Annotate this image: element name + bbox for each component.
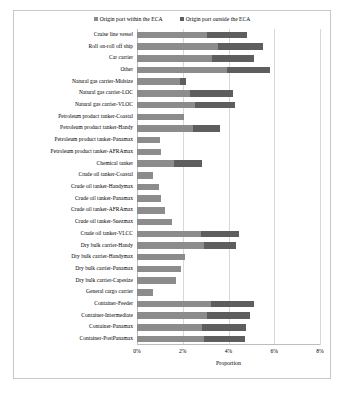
bar-segment-series-1: [137, 78, 180, 85]
bar-row: [137, 67, 320, 74]
bar-row: [137, 231, 320, 238]
bar-rows: [137, 29, 320, 345]
bar-segment-series-2: [190, 90, 233, 97]
stacked-bar: [137, 195, 161, 202]
stacked-bar: [137, 114, 184, 121]
bar-segment-series-1: [137, 137, 160, 144]
chart-container: Origin port within the ECAOrigin port ou…: [0, 0, 345, 395]
y-axis-label: Container-Feeder: [14, 301, 135, 307]
bar-row: [137, 90, 320, 97]
stacked-bar: [137, 184, 159, 191]
stacked-bar: [137, 242, 237, 249]
bar-segment-series-2: [180, 78, 186, 85]
y-axis-label: Natural gas carrier-VLOC: [14, 102, 135, 108]
bar-segment-series-2: [204, 336, 245, 343]
bar-segment-series-1: [137, 324, 202, 331]
legend-swatch-icon: [180, 17, 184, 21]
bar-segment-series-1: [137, 32, 207, 39]
bar-segment-series-2: [204, 242, 236, 249]
y-axis-label: Crude oil tanker-Handymax: [14, 184, 135, 190]
stacked-bar: [137, 301, 254, 308]
bar-row: [137, 312, 320, 319]
bar-segment-series-2: [174, 160, 202, 167]
bar-row: [137, 195, 320, 202]
legend-entry: Origin port within the ECA: [94, 16, 163, 22]
y-axis-label: Cruise line vessel: [14, 32, 135, 38]
stacked-bar: [137, 43, 263, 50]
bar-row: [137, 149, 320, 156]
x-axis-tick-label: 4%: [225, 348, 232, 354]
bar-row: [137, 301, 320, 308]
bar-segment-series-2: [227, 67, 270, 74]
bar-segment-series-1: [137, 277, 176, 284]
bar-row: [137, 102, 320, 109]
stacked-bar: [137, 324, 246, 331]
bar-segment-series-1: [137, 231, 201, 238]
y-axis-label: Roll on-roll off ship: [14, 44, 135, 50]
bar-segment-series-1: [137, 266, 181, 273]
x-axis-tick-label: 2%: [179, 348, 186, 354]
y-axis-label: Crude oil tanker-AFRAmax: [14, 207, 135, 213]
y-axis-label: Container-PostPanamax: [14, 336, 135, 342]
y-axis-label: Dry bulk carrier-Handy: [14, 243, 135, 249]
x-axis-tick-label: 6%: [271, 348, 278, 354]
legend-label: Origin port within the ECA: [100, 16, 163, 22]
chart-legend: Origin port within the ECAOrigin port ou…: [13, 16, 331, 22]
bar-segment-series-1: [137, 254, 185, 261]
bar-row: [137, 78, 320, 85]
y-axis-label: Crude oil tanker-VLCC: [14, 231, 135, 237]
bar-segment-series-2: [218, 43, 264, 50]
bar-segment-series-2: [201, 231, 239, 238]
gridline: [320, 29, 321, 345]
stacked-bar: [137, 32, 247, 39]
y-axis-label: General cargo carrier: [14, 289, 135, 295]
bar-segment-series-2: [202, 324, 245, 331]
y-axis-label: Dry bulk carrier-Capesize: [14, 278, 135, 284]
bar-segment-series-1: [137, 43, 218, 50]
bar-segment-series-1: [137, 125, 193, 132]
x-axis-tick-label: 0%: [133, 348, 140, 354]
x-axis-tick-labels: 0%2%4%6%8%: [137, 348, 320, 360]
bar-row: [137, 55, 320, 62]
bar-segment-series-2: [207, 32, 248, 39]
bar-row: [137, 160, 320, 167]
y-axis-label: Crude oil tanker-Panamax: [14, 196, 135, 202]
bar-segment-series-1: [137, 172, 153, 179]
stacked-bar: [137, 266, 181, 273]
bar-segment-series-1: [137, 114, 184, 121]
y-axis-label: Container-Intermediate: [14, 313, 135, 319]
y-axis-label: Petroleum product tanker-Panamax: [14, 137, 135, 143]
bar-row: [137, 32, 320, 39]
stacked-bar: [137, 254, 185, 261]
stacked-bar: [137, 312, 250, 319]
bar-segment-series-1: [137, 55, 212, 62]
bar-segment-series-2: [193, 125, 220, 132]
bar-segment-series-1: [137, 312, 207, 319]
stacked-bar: [137, 67, 270, 74]
bar-segment-series-1: [137, 67, 227, 74]
bar-segment-series-2: [207, 312, 250, 319]
bar-row: [137, 207, 320, 214]
bar-row: [137, 114, 320, 121]
bar-row: [137, 137, 320, 144]
bar-segment-series-1: [137, 102, 195, 109]
bar-segment-series-1: [137, 207, 165, 214]
y-axis-label: Chemical tanker: [14, 161, 135, 167]
bar-segment-series-1: [137, 184, 159, 191]
bar-row: [137, 219, 320, 226]
bar-row: [137, 184, 320, 191]
bar-row: [137, 125, 320, 132]
legend-entry: Origin port outside the ECA: [180, 16, 251, 22]
bar-segment-series-1: [137, 149, 161, 156]
bar-segment-series-2: [211, 301, 254, 308]
stacked-bar: [137, 149, 161, 156]
y-axis-label: Dry bulk carrier-Handymax: [14, 254, 135, 260]
bar-segment-series-1: [137, 289, 153, 296]
stacked-bar: [137, 102, 235, 109]
stacked-bar: [137, 137, 160, 144]
stacked-bar: [137, 231, 239, 238]
y-axis-label: Dry bulk carrier-Panamax: [14, 266, 135, 272]
stacked-bar: [137, 219, 172, 226]
bar-segment-series-2: [212, 55, 254, 62]
bar-segment-series-1: [137, 301, 211, 308]
